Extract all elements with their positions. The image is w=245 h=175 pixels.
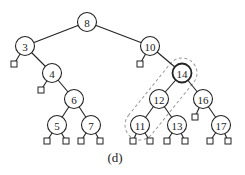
tree-edge bbox=[87, 22, 150, 46]
nil-leaf-square bbox=[78, 138, 84, 144]
tree-node-16: 16 bbox=[194, 90, 213, 109]
node-label: 13 bbox=[172, 120, 184, 132]
tree-node-5: 5 bbox=[48, 116, 67, 135]
node-label: 12 bbox=[154, 94, 165, 106]
tree-node-17: 17 bbox=[212, 116, 231, 135]
node-label: 5 bbox=[54, 120, 60, 132]
nil-leaf-square bbox=[97, 138, 103, 144]
node-label: 7 bbox=[88, 120, 94, 132]
tree-node-7: 7 bbox=[82, 116, 101, 135]
node-label: 16 bbox=[198, 94, 210, 106]
nil-leaf-square bbox=[182, 138, 188, 144]
tree-node-8: 8 bbox=[78, 13, 97, 32]
nil-leaf-square bbox=[63, 138, 69, 144]
tree-node-10: 10 bbox=[141, 37, 160, 56]
nil-leaf-square bbox=[147, 138, 153, 144]
node-label: 8 bbox=[84, 17, 90, 29]
nil-leaf-square bbox=[137, 61, 143, 67]
node-label: 10 bbox=[145, 41, 157, 53]
nil-leaf-square bbox=[130, 138, 136, 144]
tree-node-3: 3 bbox=[16, 37, 35, 56]
nil-leaf-square bbox=[38, 87, 44, 93]
nil-leaf-square bbox=[164, 138, 170, 144]
node-label: 14 bbox=[177, 68, 189, 80]
tree-node-6: 6 bbox=[65, 90, 84, 109]
tree-node-13: 13 bbox=[168, 116, 187, 135]
tree-node-12: 12 bbox=[150, 90, 169, 109]
nil-leaf-square bbox=[11, 61, 17, 67]
nil-leaf-square bbox=[44, 138, 50, 144]
binary-search-tree-diagram: 83104146121657111317 (d) bbox=[0, 0, 245, 175]
tree-node-14: 14 bbox=[173, 64, 192, 83]
nil-leaf-square bbox=[207, 138, 213, 144]
node-label: 4 bbox=[49, 68, 55, 80]
node-label: 6 bbox=[71, 94, 77, 106]
tree-node-4: 4 bbox=[43, 64, 62, 83]
nil-leaf-square bbox=[192, 114, 198, 120]
tree-edges bbox=[14, 22, 228, 141]
figure-caption: (d) bbox=[107, 150, 122, 165]
tree-node-11: 11 bbox=[131, 116, 150, 135]
node-label: 3 bbox=[22, 41, 28, 53]
node-label: 11 bbox=[135, 120, 146, 132]
node-label: 17 bbox=[216, 120, 228, 132]
nil-leaf-square bbox=[225, 138, 231, 144]
